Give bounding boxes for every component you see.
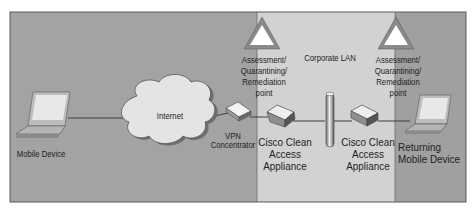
internet-label: Internet (151, 112, 189, 121)
cca2-label: Cisco Clean Access Appliance (338, 136, 398, 172)
returning-device-label: Returning Mobile Device (398, 141, 462, 165)
assessment-point-label: Assessment/ Quarantining/ Remediation po… (367, 55, 429, 99)
lan-backbone-icon (326, 92, 334, 147)
cca1-label: Cisco Clean Access Appliance (255, 136, 315, 172)
mobile-device-label: Mobile Device (13, 150, 70, 159)
assessment-point-label: Assessment/ Quarantining/ Remediation po… (233, 55, 295, 99)
vpn-concentrator-label: VPN Concentrator (205, 132, 262, 151)
network-diagram (0, 0, 473, 214)
corporate-lan-label: Corporate LAN (297, 54, 362, 63)
